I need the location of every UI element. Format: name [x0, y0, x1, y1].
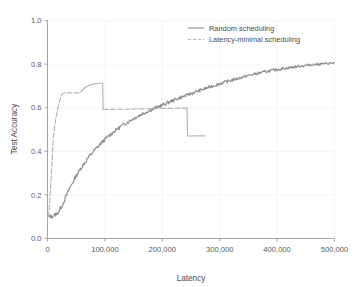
- x-axis-tick-label: 400,000: [263, 245, 290, 254]
- y-axis-tick-label: 0.6: [31, 103, 42, 112]
- y-axis-tick-label: 0.2: [31, 191, 42, 200]
- x-axis-tick-label: 300,000: [206, 245, 233, 254]
- y-axis-title: Test Accuracy: [10, 103, 19, 154]
- x-axis-tick-label: 500,000: [321, 245, 348, 254]
- plot-background: [0, 0, 361, 287]
- y-axis-tick-label: 1.0: [31, 16, 42, 25]
- line-chart: 0.00.20.40.60.81.00100,000200,000300,000…: [0, 0, 361, 287]
- y-axis-tick-label: 0.0: [31, 234, 42, 243]
- chart-figure: 0.00.20.40.60.81.00100,000200,000300,000…: [0, 0, 361, 287]
- y-axis-tick-label: 0.8: [31, 60, 42, 69]
- x-axis-tick-label: 100,000: [91, 245, 118, 254]
- x-axis-tick-label: 200,000: [149, 245, 176, 254]
- legend-label: Random scheduling: [209, 24, 274, 33]
- y-axis-tick-label: 0.4: [31, 147, 42, 156]
- x-axis-tick-label: 0: [45, 245, 49, 254]
- legend-label: Latency-minimal scheduling: [209, 35, 300, 44]
- x-axis-title: Latency: [177, 274, 207, 283]
